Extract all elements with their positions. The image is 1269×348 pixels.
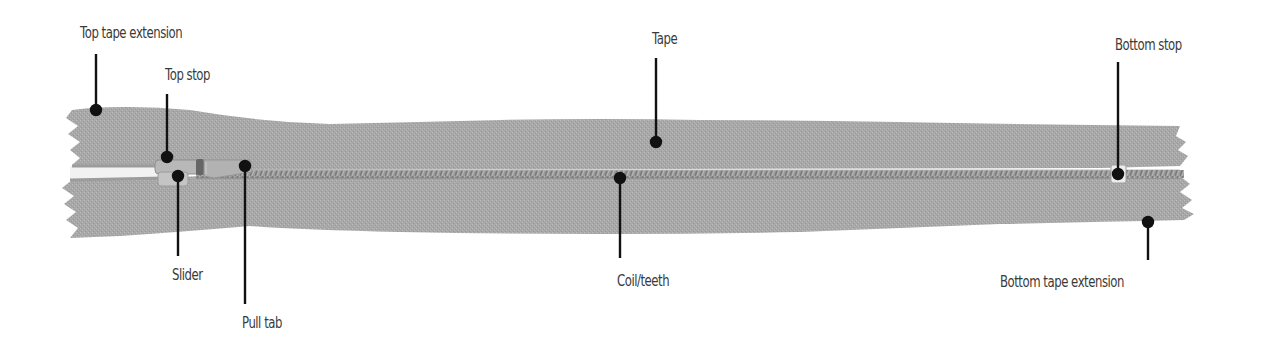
label-slider: Slider [172, 266, 203, 284]
bottom-tape [62, 176, 1194, 238]
label-tape: Tape [652, 30, 677, 48]
label-coil-teeth: Coil/teeth [617, 272, 669, 290]
bottom-tape-edge [70, 178, 165, 180]
coil-band [196, 170, 1120, 178]
zipper-illustration [0, 0, 1269, 348]
label-bottom-stop: Bottom stop [1115, 36, 1182, 54]
label-bottom-tape-extension: Bottom tape extension [1000, 273, 1124, 291]
label-top-stop: Top stop [165, 66, 210, 84]
label-pull-tab: Pull tab [242, 314, 282, 332]
zipper-diagram: Top tape extension Top stop Slider Pull … [0, 0, 1269, 348]
label-top-tape-extension: Top tape extension [80, 24, 182, 42]
